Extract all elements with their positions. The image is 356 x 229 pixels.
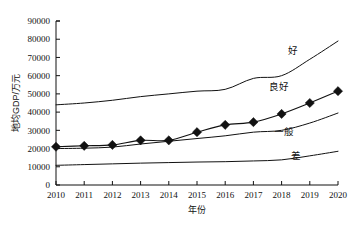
x-tick-label: 2020 (329, 190, 348, 200)
x-axis-tick-labels: 2010201120122013201420152016201720182019… (47, 190, 348, 200)
x-tick-label: 2018 (273, 190, 292, 200)
y-tick-label: 20000 (28, 144, 51, 154)
x-tick-label: 2012 (103, 190, 121, 200)
y-tick-label: 80000 (28, 34, 51, 44)
x-tick-label: 2013 (132, 190, 151, 200)
y-tick-label: 50000 (28, 89, 51, 99)
y-tick-label: 90000 (28, 16, 51, 26)
y-tick-label: 70000 (28, 53, 51, 63)
y-axis-title: 地均GDP/万元 (10, 74, 21, 132)
series-label-好: 好 (288, 45, 298, 56)
series-label-良好: 良好 (269, 81, 289, 92)
x-tick-label: 2010 (47, 190, 66, 200)
x-axis-title: 年份 (188, 204, 206, 215)
series-label-差: 差 (291, 150, 301, 161)
gdp-threshold-line-chart: 0100002000030000400005000060000700008000… (0, 0, 356, 229)
x-tick-label: 2015 (188, 190, 207, 200)
x-tick-label: 2017 (244, 190, 263, 200)
y-tick-label: 10000 (28, 162, 51, 172)
x-tick-label: 2016 (216, 190, 235, 200)
y-tick-label: 30000 (28, 126, 51, 136)
x-tick-label: 2011 (75, 190, 93, 200)
x-tick-label: 2014 (160, 190, 179, 200)
series-label-一般: 一般 (274, 126, 294, 137)
y-tick-label: 60000 (28, 71, 51, 81)
chart-container: 0100002000030000400005000060000700008000… (0, 0, 356, 229)
x-tick-label: 2019 (301, 190, 320, 200)
y-tick-label: 0 (46, 180, 51, 190)
y-tick-label: 40000 (28, 107, 51, 117)
